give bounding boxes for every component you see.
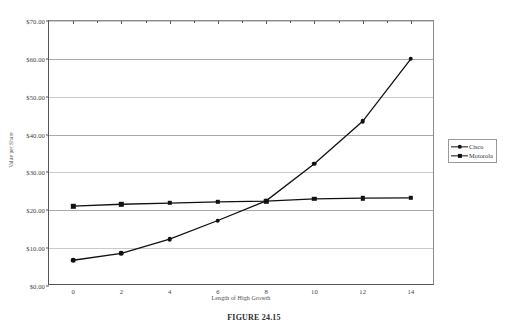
legend-label: Cisco <box>468 143 484 150</box>
y-axis-tick-label: $60.00 <box>26 55 45 62</box>
legend-item-cisco[interactable]: Cisco <box>451 142 493 151</box>
data-point-cisco <box>167 237 172 242</box>
legend-label: Motorola <box>468 152 493 159</box>
data-point-cisco <box>360 119 365 124</box>
legend-marker-square-icon <box>451 151 468 160</box>
y-axis-title: Value per Share <box>8 132 14 168</box>
legend-marker-circle-icon <box>451 142 468 151</box>
x-axis-tick-label: 2 <box>120 288 123 295</box>
x-axis-tick-label: 10 <box>311 288 318 295</box>
x-axis-tick-label: 6 <box>216 288 219 295</box>
data-point-cisco <box>119 251 124 256</box>
x-axis-tick-label: 8 <box>264 288 267 295</box>
y-axis-tick-label: $20.00 <box>26 207 45 214</box>
y-axis-tick-label: $50.00 <box>26 93 45 100</box>
data-point-motorola <box>119 202 123 206</box>
data-point-motorola <box>71 204 75 208</box>
data-point-motorola <box>312 197 316 201</box>
data-point-motorola <box>409 196 413 200</box>
y-axis-tick-label: $0.00 <box>30 283 45 290</box>
y-axis-tick-label: $70.00 <box>26 18 45 25</box>
data-point-motorola <box>264 199 268 203</box>
y-axis-tick-label: $30.00 <box>26 169 45 176</box>
x-axis-title: Length of High Growth <box>48 295 434 301</box>
figure-container: Value per Share $0.00$10.00$20.00$30.00$… <box>0 0 508 320</box>
figure-caption: FIGURE 24.15 <box>0 313 508 320</box>
y-axis-tick-label: $40.00 <box>26 131 45 138</box>
x-axis-tick-label: 4 <box>168 288 171 295</box>
x-axis-tick-label: 12 <box>359 288 366 295</box>
data-point-cisco <box>312 161 317 166</box>
x-axis-tick-label: 14 <box>408 288 415 295</box>
y-axis-tick-label: $10.00 <box>26 245 45 252</box>
series-line-cisco <box>73 59 411 260</box>
chart-legend[interactable]: CiscoMotorola <box>448 139 497 163</box>
x-axis-tick-label: 0 <box>71 288 74 295</box>
series-lines-layer <box>49 21 435 286</box>
data-point-cisco <box>409 57 414 62</box>
data-point-motorola <box>167 201 171 205</box>
data-point-motorola <box>216 200 220 204</box>
legend-item-motorola[interactable]: Motorola <box>451 151 493 160</box>
plot-area: $0.00$10.00$20.00$30.00$40.00$50.00$60.0… <box>48 20 434 285</box>
data-point-cisco <box>216 218 221 223</box>
data-point-motorola <box>360 196 364 200</box>
data-point-cisco <box>71 258 76 263</box>
